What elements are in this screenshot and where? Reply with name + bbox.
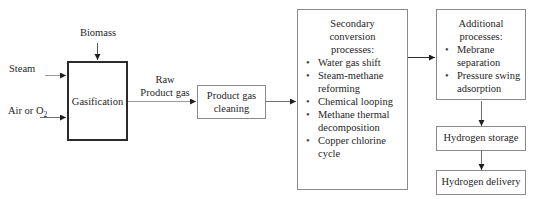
list-item[interactable]: • Steam-methane reforming: [298, 69, 407, 95]
bullet-icon: •: [306, 69, 310, 82]
list-item[interactable]: • Methane thermal decomposition: [298, 108, 407, 134]
raw-product-gas-line2: Product gas: [133, 87, 197, 100]
label-raw-product-gas: Raw Product gas: [133, 74, 197, 99]
additional-processes-title-line1: Additional: [443, 17, 519, 30]
list-item[interactable]: • Mebrane separation: [437, 43, 525, 69]
label-steam: Steam: [9, 63, 35, 76]
list-item[interactable]: • Pressure swing adsorption: [437, 69, 525, 95]
list-item-label: Chemical looping: [318, 96, 393, 107]
hydrogen-delivery-label: Hydrogen delivery: [437, 176, 525, 189]
additional-processes-list: • Mebrane separation • Pressure swing ad…: [437, 43, 525, 95]
list-item[interactable]: • Water gas shift: [298, 56, 407, 69]
box-hydrogen-delivery[interactable]: Hydrogen delivery: [436, 170, 526, 195]
label-air-or-oxygen: Air or O2: [8, 105, 47, 122]
product-gas-cleaning-line2: cleaning: [198, 103, 265, 116]
list-item-label: Copper chlorine cycle: [318, 135, 386, 159]
list-item[interactable]: • Copper chlorine cycle: [298, 134, 407, 160]
box-gasification[interactable]: Gasification: [67, 61, 128, 141]
process-flow-diagram: Biomass Steam Air or O2 Raw Product gas …: [0, 0, 536, 199]
secondary-conversion-title: Secondary conversion processes:: [298, 17, 407, 56]
list-item-label: Methane thermal decomposition: [318, 109, 389, 133]
box-hydrogen-storage[interactable]: Hydrogen storage: [436, 126, 526, 151]
bullet-icon: •: [306, 56, 310, 69]
additional-processes-title: Additional processes:: [437, 17, 525, 43]
bullet-icon: •: [306, 95, 310, 108]
list-item-label: Water gas shift: [318, 57, 381, 68]
raw-product-gas-line1: Raw: [133, 74, 197, 87]
bullet-icon: •: [445, 43, 449, 56]
list-item[interactable]: • Chemical looping: [298, 95, 407, 108]
product-gas-cleaning-line1: Product gas: [198, 90, 265, 103]
gasification-label: Gasification: [69, 96, 126, 109]
box-additional-processes[interactable]: Additional processes: • Mebrane separati…: [436, 9, 526, 100]
bullet-icon: •: [306, 108, 310, 121]
list-item-label: Pressure swing adsorption: [457, 70, 520, 94]
box-secondary-conversion-processes[interactable]: Secondary conversion processes: • Water …: [297, 9, 408, 190]
secondary-conversion-title-line2: conversion: [304, 30, 401, 43]
list-item-label: Mebrane separation: [457, 44, 500, 68]
box-product-gas-cleaning[interactable]: Product gas cleaning: [197, 85, 266, 119]
bullet-icon: •: [445, 69, 449, 82]
secondary-conversion-title-line3: processes:: [304, 43, 401, 56]
bullet-icon: •: [306, 134, 310, 147]
secondary-conversion-title-line1: Secondary: [304, 17, 401, 30]
additional-processes-title-line2: processes:: [443, 30, 519, 43]
label-biomass: Biomass: [67, 27, 129, 40]
oxygen-subscript: 2: [44, 110, 48, 119]
secondary-conversion-list: • Water gas shift • Steam-methane reform…: [298, 56, 407, 160]
hydrogen-storage-label: Hydrogen storage: [437, 132, 525, 145]
list-item-label: Steam-methane reforming: [318, 70, 383, 94]
